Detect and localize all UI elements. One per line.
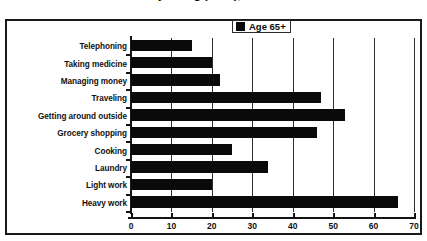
x-tick-label-30: 30	[237, 221, 267, 231]
category-axis-labels: TelephoningTaking medicineManaging money…	[10, 38, 127, 212]
bar-row	[131, 55, 414, 72]
bar-row	[131, 125, 414, 142]
x-tick-30	[252, 213, 254, 218]
y-tick	[126, 141, 131, 143]
category-label-laundry: Laundry	[10, 160, 127, 177]
bar-laundry	[131, 161, 268, 172]
category-label-managing-money: Managing money	[10, 73, 127, 90]
chart-title: of Daily Living (IADL), 1982–1984.	[0, 0, 427, 2]
y-tick	[126, 107, 131, 109]
bar-row	[131, 108, 414, 125]
x-tick-50	[333, 213, 335, 218]
x-tick-60	[374, 213, 376, 218]
category-label-grocery-shopping: Grocery shopping	[10, 125, 127, 142]
category-label-light-work: Light work	[10, 177, 127, 194]
y-tick	[126, 124, 131, 126]
bar-grocery-shopping	[131, 127, 317, 138]
bar-heavy-work	[131, 196, 398, 207]
square-swatch-icon	[236, 22, 245, 31]
chart-legend: Age 65+	[232, 20, 291, 33]
bar-row	[131, 73, 414, 90]
bar-taking-medicine	[131, 57, 212, 68]
category-label-taking-medicine: Taking medicine	[10, 55, 127, 72]
bar-row	[131, 177, 414, 194]
y-tick	[126, 194, 131, 196]
x-tick-label-50: 50	[318, 221, 348, 231]
y-tick	[126, 159, 131, 161]
y-tick	[126, 176, 131, 178]
chart-screenshot: of Daily Living (IADL), 1982–1984. Age 6…	[0, 0, 427, 241]
bar-row	[131, 142, 414, 159]
y-tick	[126, 72, 131, 74]
bar-managing-money	[131, 74, 220, 85]
bar-row	[131, 90, 414, 107]
bar-rows	[131, 38, 414, 212]
x-tick-label-40: 40	[278, 221, 308, 231]
x-tick-label-0: 0	[116, 221, 146, 231]
bar-cooking	[131, 144, 232, 155]
bar-row	[131, 195, 414, 212]
x-tick-70	[414, 213, 416, 218]
category-label-getting-around-outside: Getting around outside	[10, 108, 127, 125]
x-tick-0	[131, 213, 133, 218]
x-tick-label-60: 60	[359, 221, 389, 231]
plot-area	[131, 38, 414, 212]
y-tick	[126, 211, 131, 213]
x-tick-label-10: 10	[156, 221, 186, 231]
category-label-telephoning: Telephoning	[10, 38, 127, 55]
bar-light-work	[131, 179, 212, 190]
bar-getting-around-outside	[131, 109, 345, 120]
gridline-70	[414, 38, 415, 212]
x-tick-10	[171, 213, 173, 218]
category-label-cooking: Cooking	[10, 142, 127, 159]
bar-row	[131, 160, 414, 177]
bar-telephoning	[131, 40, 192, 51]
x-tick-label-20: 20	[197, 221, 227, 231]
bar-row	[131, 38, 414, 55]
category-label-heavy-work: Heavy work	[10, 195, 127, 212]
x-tick-20	[212, 213, 214, 218]
bar-traveling	[131, 92, 321, 103]
x-tick-label-70: 70	[399, 221, 427, 231]
legend-label-age65: Age 65+	[249, 22, 286, 32]
y-tick	[126, 89, 131, 91]
category-label-traveling: Traveling	[10, 90, 127, 107]
y-tick	[126, 54, 131, 56]
x-tick-40	[293, 213, 295, 218]
